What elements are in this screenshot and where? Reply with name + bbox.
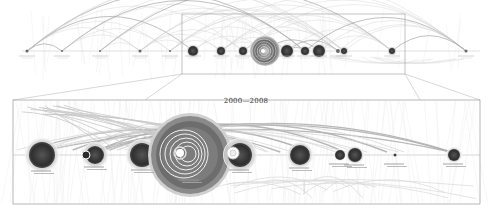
overview-node	[215, 45, 226, 56]
detail-node	[394, 154, 397, 157]
detail-node	[148, 113, 232, 197]
overview-node	[339, 46, 348, 55]
overview-background-lines	[31, 8, 461, 79]
overview-node	[61, 50, 63, 52]
detail-node-ringed	[227, 147, 239, 159]
overview-node	[299, 45, 310, 56]
overview-node	[139, 50, 142, 53]
overview-node	[387, 46, 396, 55]
overview-labels	[19, 56, 474, 58]
detail-title-text: 2000—2008	[224, 97, 268, 105]
detail-node	[446, 147, 462, 163]
detail-node	[346, 146, 364, 164]
detail-node	[287, 142, 313, 168]
detail-node	[25, 138, 59, 172]
overview-node	[186, 44, 199, 57]
overview-node	[311, 43, 326, 58]
overview-node	[26, 50, 29, 53]
detail-node	[334, 149, 346, 161]
detail-title: 2000—2008	[0, 97, 492, 105]
overview-node	[237, 45, 248, 56]
overview-node	[336, 49, 340, 53]
overview-node	[279, 43, 294, 58]
overview-node	[169, 50, 171, 52]
overview-node	[250, 36, 280, 66]
arc-timeline-diagram	[0, 0, 492, 215]
overview-node	[465, 50, 468, 53]
overview-node	[99, 50, 101, 52]
